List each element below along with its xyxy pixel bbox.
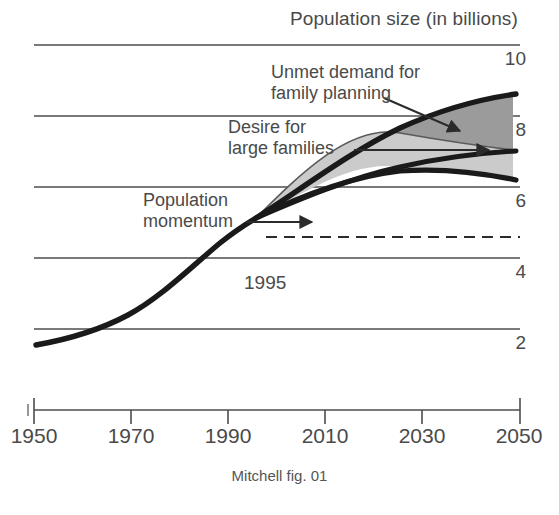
annotation-desire-line1: Desire for — [228, 117, 334, 138]
figure-canvas: Population size (in billions) 10 8 6 4 2… — [0, 0, 559, 515]
x-tick-2010: 2010 — [285, 424, 365, 448]
annotation-unmet-demand: Unmet demand for family planning — [271, 62, 420, 104]
figure-caption: Mitchell fig. 01 — [0, 468, 559, 485]
annotation-unmet-demand-line1: Unmet demand for — [271, 62, 420, 83]
axis-title: Population size (in billions) — [290, 8, 518, 29]
annotation-desire-large-families: Desire for large families — [228, 117, 334, 159]
x-tick-2050: 2050 — [479, 424, 559, 448]
y-tick-8: 8 — [498, 119, 526, 141]
x-tick-1990: 1990 — [188, 424, 268, 448]
y-tick-6: 6 — [498, 190, 526, 212]
annotation-desire-line2: large families — [228, 138, 334, 159]
x-axis — [34, 398, 520, 424]
y-tick-2: 2 — [498, 332, 526, 354]
y-tick-4: 4 — [498, 261, 526, 283]
annotation-unmet-demand-line2: family planning — [271, 83, 420, 104]
annotation-year-1995: 1995 — [244, 272, 286, 294]
x-tick-1950: 1950 — [0, 424, 74, 448]
x-tick-2030: 2030 — [382, 424, 462, 448]
y-tick-10: 10 — [498, 48, 526, 70]
annotation-momentum-line1: Population — [143, 190, 233, 211]
annotation-momentum-line2: momentum — [143, 211, 233, 232]
x-tick-1970: 1970 — [91, 424, 171, 448]
annotation-population-momentum: Population momentum — [143, 190, 233, 232]
